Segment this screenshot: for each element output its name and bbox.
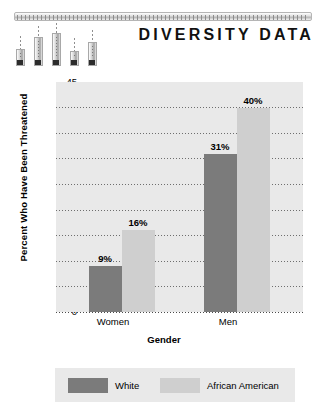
value-label-men-white: 31% bbox=[200, 141, 240, 152]
x-axis-line bbox=[56, 312, 303, 313]
legend-label-white: White bbox=[115, 380, 139, 391]
page-title: DIVERSITY DATA bbox=[139, 26, 314, 44]
bar-women-african-american bbox=[122, 230, 155, 312]
ruler-ticks bbox=[17, 15, 309, 20]
legend-item-white: White bbox=[68, 377, 139, 393]
y-axis-title: Percent Who Have Been Threatened bbox=[18, 83, 29, 273]
slider-gauge-2-icon bbox=[34, 26, 43, 66]
header: DIVERSITY DATA bbox=[0, 0, 328, 72]
slider-gauge-3-icon bbox=[52, 23, 61, 66]
slider-gauge-1-icon bbox=[16, 36, 25, 66]
value-label-women-african-american: 16% bbox=[118, 217, 158, 228]
x-tick-label-women: Women bbox=[73, 316, 153, 327]
slider-gauge-5-icon bbox=[88, 30, 97, 66]
ruler-bar-icon bbox=[14, 12, 312, 21]
bar-men-white bbox=[204, 154, 237, 312]
legend-swatch-african-american bbox=[160, 378, 200, 393]
chart-legend: White African American bbox=[55, 368, 295, 402]
value-label-women-white: 9% bbox=[85, 253, 125, 264]
bar-men-african-american bbox=[237, 108, 270, 312]
value-label-men-african-american: 40% bbox=[233, 95, 273, 106]
x-tick-label-men: Men bbox=[188, 316, 268, 327]
bar-women-white bbox=[89, 266, 122, 312]
slider-gauge-4-icon bbox=[70, 38, 79, 66]
slider-gauges-decoration bbox=[16, 21, 136, 66]
x-axis-title: Gender bbox=[0, 334, 328, 345]
bar-chart: Percent Who Have Been Threatened 45 40 3… bbox=[0, 72, 328, 352]
legend-item-african-american: African American bbox=[160, 377, 279, 393]
legend-label-african-american: African American bbox=[207, 380, 279, 391]
legend-swatch-white bbox=[68, 378, 108, 393]
plot-area: 9% 16% 31% 40% bbox=[56, 82, 303, 312]
diversity-data-chart-page: DIVERSITY DATA Percent Who Have Been Thr… bbox=[0, 0, 328, 420]
